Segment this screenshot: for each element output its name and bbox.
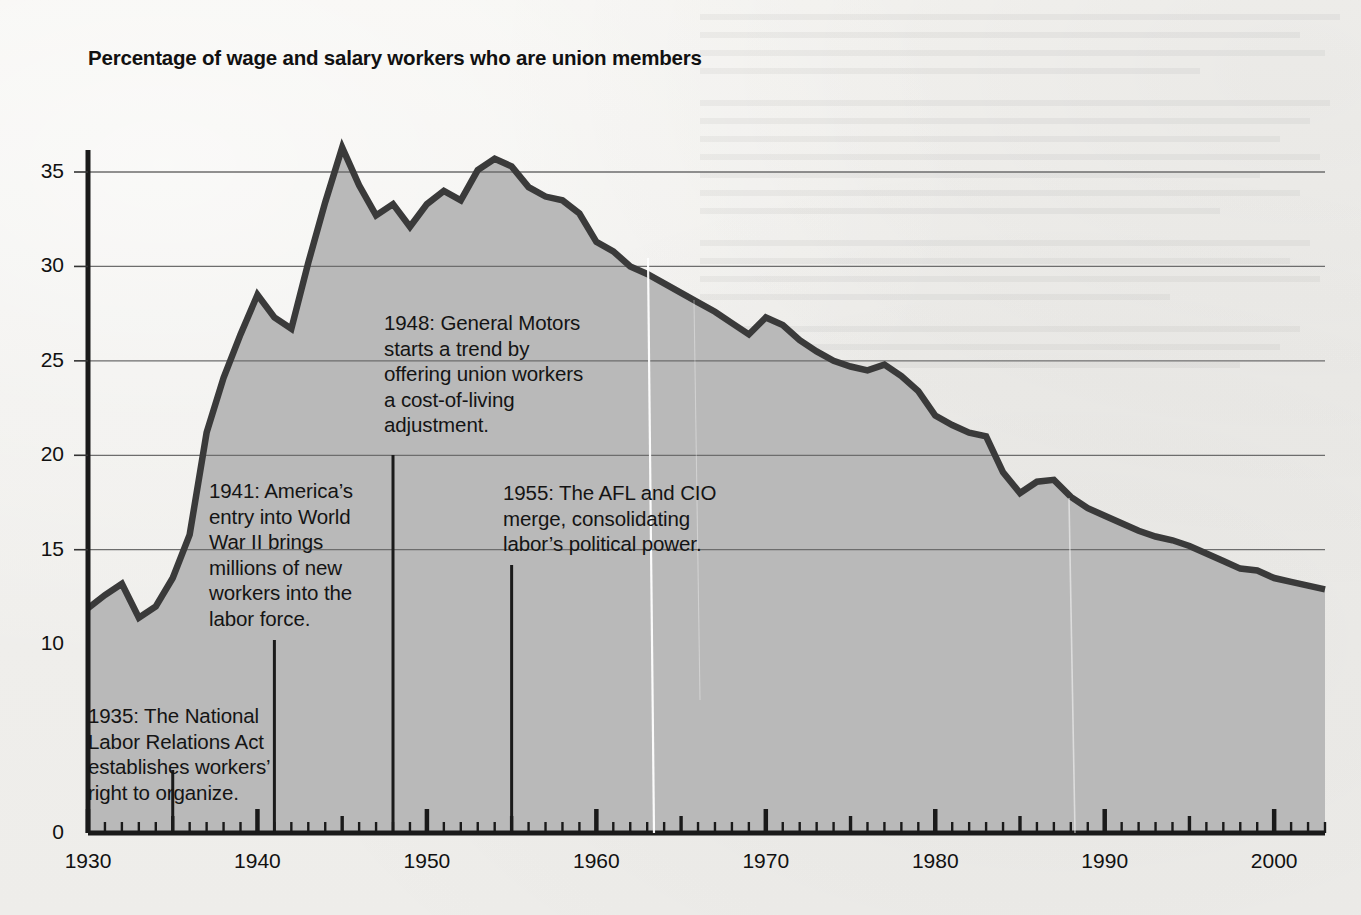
x-axis-tick-label: 1990 — [1065, 849, 1145, 873]
x-axis-tick-label: 1940 — [217, 849, 297, 873]
x-axis-tick-label: 1980 — [895, 849, 975, 873]
x-axis-tick-label: 2000 — [1234, 849, 1314, 873]
annotation-1941: 1941: America’s entry into World War II … — [209, 478, 379, 631]
annotation-1935: 1935: The National Labor Relations Act e… — [88, 703, 283, 805]
y-axis-tick-label: 20 — [20, 442, 64, 466]
y-axis-tick-label: 25 — [20, 348, 64, 372]
annotation-1955: 1955: The AFL and CIO merge, consolidati… — [503, 480, 748, 557]
x-axis-tick-label: 1930 — [48, 849, 128, 873]
y-axis-tick-label: 15 — [20, 537, 64, 561]
chart-page: Percentage of wage and salary workers wh… — [0, 0, 1361, 915]
annotation-1948: 1948: General Motors starts a trend by o… — [384, 310, 599, 438]
y-axis-tick-label: 35 — [20, 159, 64, 183]
x-axis-tick-label: 1960 — [556, 849, 636, 873]
y-axis-tick-label: 30 — [20, 253, 64, 277]
x-axis-tick-label: 1970 — [726, 849, 806, 873]
y-axis-tick-label: 0 — [20, 820, 64, 844]
y-axis-tick-label: 10 — [20, 631, 64, 655]
x-axis-tick-label: 1950 — [387, 849, 467, 873]
